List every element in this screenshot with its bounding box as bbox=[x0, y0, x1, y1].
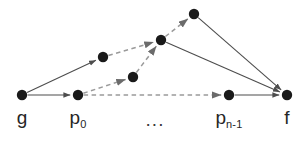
ellipsis-label: ... bbox=[146, 110, 165, 129]
node-label-f: f bbox=[284, 108, 289, 127]
edge-g-to-a bbox=[27, 60, 96, 92]
node-b[interactable] bbox=[128, 72, 138, 82]
node-p0[interactable] bbox=[73, 90, 83, 100]
node-layer bbox=[17, 9, 292, 100]
graph-diagram: gp0pn-1f ... bbox=[0, 0, 308, 143]
node-label-base-p0: p bbox=[70, 107, 81, 128]
node-d[interactable] bbox=[189, 9, 199, 19]
edge-layer bbox=[27, 18, 281, 95]
node-label-base-f: f bbox=[284, 107, 289, 128]
node-f[interactable] bbox=[282, 90, 292, 100]
node-label-p0: p0 bbox=[70, 108, 87, 127]
node-pn1[interactable] bbox=[224, 90, 234, 100]
edge-p0-to-b bbox=[83, 79, 125, 93]
node-label-pn1: pn-1 bbox=[215, 108, 242, 127]
node-g[interactable] bbox=[17, 90, 27, 100]
node-a[interactable] bbox=[98, 52, 108, 62]
edge-c-to-f bbox=[166, 42, 280, 92]
edge-a-to-c bbox=[108, 42, 153, 55]
edge-c-to-d bbox=[165, 19, 187, 37]
node-label-base-g: g bbox=[17, 107, 28, 128]
node-label-base-pn1: p bbox=[215, 107, 226, 128]
node-label-g: g bbox=[17, 108, 28, 127]
node-c[interactable] bbox=[156, 35, 166, 45]
node-label-subscript-p0: 0 bbox=[80, 118, 86, 130]
edge-b-to-c bbox=[136, 46, 156, 72]
edge-d-to-f bbox=[198, 18, 281, 90]
node-label-subscript-pn1: n-1 bbox=[226, 118, 243, 130]
